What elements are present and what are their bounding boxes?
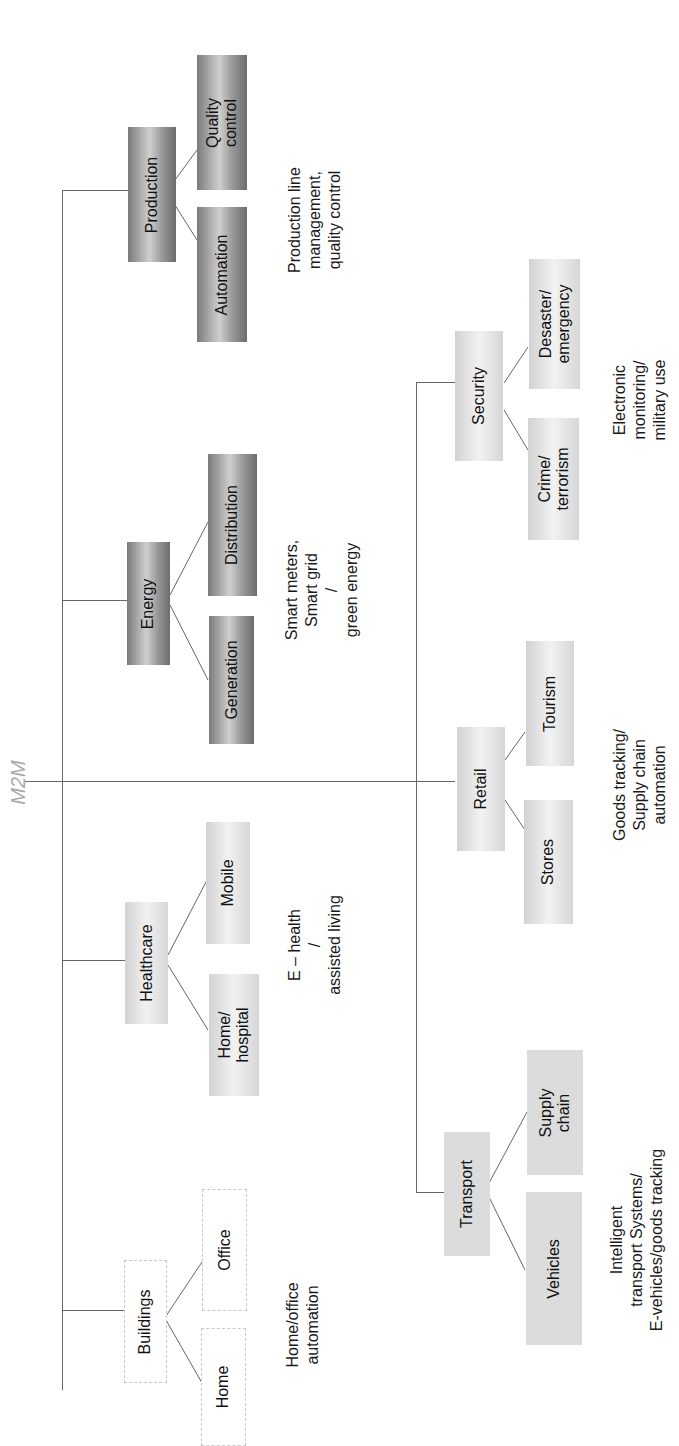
link-healthcare [62,960,126,961]
node-quality-control: Quality control [197,55,247,190]
upper-bus [62,190,63,1390]
root-label-m2m: M2M [4,760,32,804]
node-security: Security [455,331,503,461]
node-retail: Retail [457,727,505,851]
desc-healthcare: E – health / assisted living [275,880,355,1010]
node-energy: Energy [127,542,170,665]
link-buildings [62,1310,124,1311]
link-energy [62,600,128,601]
lower-bus [416,382,417,1192]
node-supply-chain: Supply chain [527,1050,583,1175]
desc-buildings: Home/office automation [278,1270,328,1380]
node-office: Office [202,1189,247,1311]
node-stores: Stores [524,800,573,924]
link-security [416,382,456,383]
node-automation: Automation [197,207,247,342]
desc-retail: Goods tracking/ Supply chain automation [600,720,679,850]
node-generation: Generation [209,616,254,744]
desc-energy: Smart meters, Smart grid / green energy [270,520,375,660]
node-transport: Transport [444,1132,490,1256]
node-mobile: Mobile [206,822,250,944]
node-home: Home [201,1328,246,1446]
node-buildings: Buildings [124,1260,167,1383]
desc-security: Electronic monitoring/ military use [600,340,679,460]
root-spine [25,781,455,782]
node-distribution: Distribution [208,454,257,596]
node-tourism: Tourism [526,641,574,766]
node-home-hospital: Home/ hospital [209,974,259,1096]
desc-production: Production line management, quality cont… [275,150,355,290]
node-crime: Crime/ terrorism [528,418,579,540]
node-desaster: Desaster/ emergency [529,259,580,389]
node-healthcare: Healthcare [125,902,168,1024]
link-production [62,190,128,191]
node-vehicles: Vehicles [526,1192,582,1345]
desc-transport: Intelligent transport Systems/ E-vehicle… [597,1150,677,1330]
node-production: Production [128,127,176,262]
link-transport [416,1192,444,1193]
